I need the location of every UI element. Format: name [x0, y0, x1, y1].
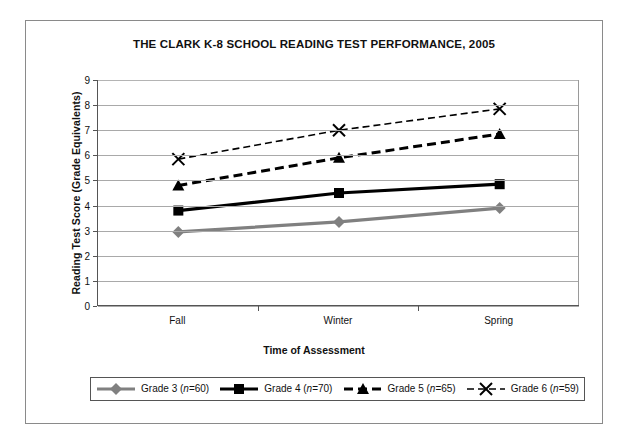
- gridline: [98, 281, 579, 282]
- data-point-marker-square: [173, 206, 183, 216]
- y-tick-mark: [93, 231, 97, 232]
- gridline: [98, 80, 579, 81]
- legend-label: Grade 5 (n=65): [388, 384, 456, 394]
- y-tick-label: 4: [84, 200, 90, 211]
- chart-figure: THE CLARK K-8 SCHOOL READING TEST PERFOR…: [25, 20, 603, 424]
- legend-swatch-diamond-icon: [96, 382, 136, 396]
- gridline: [98, 306, 579, 307]
- legend-item: Grade 4 (n=70): [219, 382, 332, 396]
- x-tick-label: Fall: [169, 315, 185, 326]
- legend-swatch-triangle-icon: [343, 382, 383, 396]
- legend-label: Grade 6 (n=59): [511, 384, 579, 394]
- chart-legend: Grade 3 (n=60)Grade 4 (n=70)Grade 5 (n=6…: [90, 377, 585, 401]
- data-point-marker-square: [334, 188, 344, 198]
- data-point-marker-diamond: [333, 216, 345, 228]
- gridline: [98, 105, 579, 106]
- gridline: [98, 256, 579, 257]
- gridline: [98, 231, 579, 232]
- x-tick-label: Spring: [484, 315, 513, 326]
- y-tick-mark: [93, 206, 97, 207]
- plot-right-border: [578, 80, 579, 305]
- x-tick-mark: [258, 306, 259, 311]
- y-tick-label: 8: [84, 100, 90, 111]
- y-tick-label: 6: [84, 150, 90, 161]
- x-axis-title: Time of Assessment: [26, 344, 602, 356]
- series-layer: [98, 80, 580, 306]
- gridline: [98, 206, 579, 207]
- series-line: [173, 179, 504, 215]
- y-tick-mark: [93, 155, 97, 156]
- y-tick-mark: [93, 256, 97, 257]
- y-tick-mark: [93, 80, 97, 81]
- x-tick-mark: [418, 306, 419, 311]
- legend-label: Grade 3 (n=60): [141, 384, 209, 394]
- y-tick-label: 9: [84, 75, 90, 86]
- plot-wrapper: 0123456789 FallWinterSpring: [97, 80, 579, 306]
- legend-label: Grade 4 (n=70): [264, 384, 332, 394]
- legend-item: Grade 6 (n=59): [466, 382, 579, 396]
- gridline: [98, 180, 579, 181]
- legend-item: Grade 5 (n=65): [343, 382, 456, 396]
- y-tick-label: 5: [84, 175, 90, 186]
- series-polyline: [178, 109, 499, 159]
- y-tick-label: 3: [84, 225, 90, 236]
- data-point-marker-diamond: [172, 226, 184, 238]
- y-tick-mark: [93, 180, 97, 181]
- plot-area: [97, 80, 579, 306]
- y-tick-label: 2: [84, 250, 90, 261]
- y-tick-mark: [93, 105, 97, 106]
- y-tick-mark: [93, 306, 97, 307]
- y-axis-title-text: Reading Test Score (Grade Equivalents): [70, 91, 82, 294]
- data-point-marker-diamond: [494, 202, 506, 214]
- data-point-marker-square: [234, 384, 244, 394]
- legend-swatch-square-icon: [219, 382, 259, 396]
- chart-title: THE CLARK K-8 SCHOOL READING TEST PERFOR…: [26, 38, 602, 50]
- gridline: [98, 130, 579, 131]
- y-tick-mark: [93, 130, 97, 131]
- gridline: [98, 155, 579, 156]
- y-axis-title: Reading Test Score (Grade Equivalents): [68, 80, 84, 306]
- y-tick-mark: [93, 281, 97, 282]
- data-point-marker-diamond: [110, 383, 122, 395]
- y-tick-label: 1: [84, 275, 90, 286]
- x-tick-label: Winter: [324, 315, 353, 326]
- y-tick-label: 7: [84, 125, 90, 136]
- y-tick-label: 0: [84, 301, 90, 312]
- legend-item: Grade 3 (n=60): [96, 382, 209, 396]
- series-line: [172, 202, 505, 238]
- legend-swatch-x-cross-icon: [466, 382, 506, 396]
